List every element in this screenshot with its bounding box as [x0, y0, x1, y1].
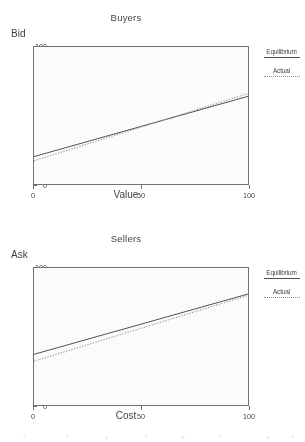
legend-swatch-solid-line	[264, 278, 300, 279]
legend-label-equilibrium: Equilibrium	[258, 269, 305, 276]
series-line-actual	[34, 295, 248, 361]
document-page: Buyers Bid 020406080100 050100 Value Equ…	[0, 0, 305, 442]
series-line-actual	[34, 94, 248, 161]
legend-label-actual: Actual	[258, 67, 305, 74]
legend-label-actual: Actual	[258, 288, 305, 295]
plot-lines	[34, 268, 248, 405]
chart-legend: Equilibrium Actual	[258, 48, 305, 86]
legend-entry-equilibrium: Equilibrium	[258, 48, 305, 58]
legend-swatch-dotted-line	[264, 76, 300, 77]
legend-swatch-dotted-line	[264, 297, 300, 298]
legend-entry-equilibrium: Equilibrium	[258, 269, 305, 279]
series-line-equilibrium	[34, 96, 248, 156]
legend-entry-actual: Actual	[258, 67, 305, 77]
scan-artifact-band	[0, 432, 305, 442]
chart-legend: Equilibrium Actual	[258, 269, 305, 307]
chart-title: Sellers	[0, 233, 252, 244]
plot-lines	[34, 47, 248, 184]
plot-area	[33, 46, 249, 185]
legend-entry-actual: Actual	[258, 288, 305, 298]
legend-swatch-solid-line	[264, 57, 300, 58]
x-axis-label: Value	[0, 189, 252, 200]
chart-buyers: Buyers Bid 020406080100 050100 Value Equ…	[0, 2, 305, 216]
y-axis-label: Bid	[11, 28, 25, 39]
chart-sellers: Sellers Ask 020406080100 050100 Cost Equ…	[0, 223, 305, 437]
legend-label-equilibrium: Equilibrium	[258, 48, 305, 55]
chart-title: Buyers	[0, 12, 252, 23]
series-line-equilibrium	[34, 294, 248, 354]
plot-area	[33, 267, 249, 406]
y-axis-label: Ask	[11, 249, 28, 260]
x-axis-label: Cost	[0, 410, 252, 421]
